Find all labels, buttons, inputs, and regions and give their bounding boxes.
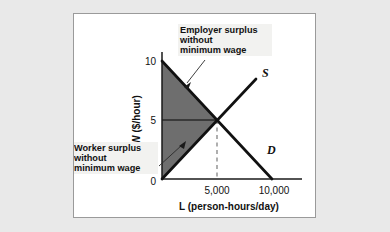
employer-surplus-annotation: Employer surplus without minimum wage: [178, 24, 272, 90]
employer-surplus-annotation-line-2: without: [179, 35, 213, 45]
figure-frame: S D 10 5 0 5,000 10,000 L (person-hours/…: [73, 13, 316, 218]
employer-surplus-annotation-leader: [187, 60, 205, 83]
x-axis-title: L (person-hours/day): [179, 201, 279, 212]
y-tick-10: 10: [145, 56, 157, 67]
y-tick-5: 5: [150, 115, 156, 126]
supply-demand-chart: S D 10 5 0 5,000 10,000 L (person-hours/…: [74, 14, 315, 217]
worker-surplus-annotation-line-3: minimum wage: [74, 163, 140, 173]
employer-surplus-annotation-line-1: Employer surplus: [180, 25, 258, 35]
x-tick-5000: 5,000: [204, 185, 229, 196]
y-axis-title: W ($/hour): [131, 95, 142, 144]
employer-surplus-annotation-line-3: minimum wage: [180, 45, 246, 55]
y-tick-0: 0: [150, 176, 156, 187]
supply-curve-label: S: [262, 66, 269, 80]
demand-curve-label: D: [266, 143, 276, 157]
x-tick-10000: 10,000: [259, 185, 290, 196]
worker-surplus-annotation-line-2: without: [74, 153, 107, 163]
worker-surplus-annotation-line-1: Worker surplus: [74, 143, 141, 153]
